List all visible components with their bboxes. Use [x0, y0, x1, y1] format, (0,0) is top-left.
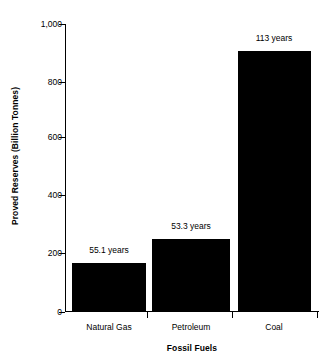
bar-label-petroleum: 53.3 years — [171, 221, 211, 231]
bar-coal[interactable] — [238, 51, 311, 311]
bar-label-coal: 113 years — [256, 33, 293, 43]
bar-label-natural-gas: 55.1 years — [89, 245, 129, 255]
x-axis-title: Fossil Fuels — [65, 343, 319, 353]
x-category-label-coal: Coal — [265, 322, 282, 332]
bar-natural-gas[interactable] — [72, 263, 146, 311]
x-category-label-natural-gas: Natural Gas — [86, 322, 131, 332]
bar-petroleum[interactable] — [152, 239, 230, 311]
plot-area: 55.1 years 53.3 years 113 years Natural … — [0, 0, 329, 363]
bar-chart: Proved Reserves (Billion Tonnes) 0 200 4… — [0, 0, 329, 363]
x-category-label-petroleum: Petroleum — [172, 322, 211, 332]
